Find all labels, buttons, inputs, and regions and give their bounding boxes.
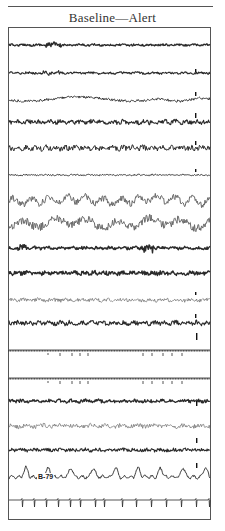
trace-channel-0	[9, 42, 210, 47]
trace-channel-8	[9, 245, 210, 253]
trace-channel-13	[9, 378, 210, 384]
calibration-mark	[195, 113, 196, 118]
calibration-mark	[195, 141, 196, 145]
calibration-mark	[196, 438, 197, 443]
polygraph-traces	[0, 0, 225, 531]
calibration-mark	[196, 333, 197, 340]
trace-channel-5	[9, 174, 210, 176]
trace-channel-4	[9, 145, 210, 152]
trace-channel-6	[9, 193, 210, 207]
annotation-label: B-79	[37, 473, 54, 481]
calibration-marks	[195, 69, 197, 468]
trace-channel-1	[9, 71, 210, 76]
trace-channel-2	[9, 96, 210, 102]
trace-channel-15	[9, 423, 210, 429]
calibration-mark	[195, 92, 196, 96]
calibration-mark	[195, 314, 196, 318]
trace-channel-7	[9, 214, 210, 231]
trace-group	[9, 42, 210, 507]
calibration-mark	[195, 292, 196, 295]
calibration-mark	[196, 401, 197, 406]
trace-channel-16	[9, 448, 210, 452]
trace-channel-3	[9, 119, 210, 124]
calibration-mark	[195, 169, 196, 172]
trace-channel-10	[9, 298, 210, 303]
trace-channel-9	[9, 271, 210, 276]
calibration-mark	[195, 69, 196, 72]
trace-channel-18	[9, 499, 210, 508]
trace-channel-11	[9, 320, 210, 326]
calibration-mark	[196, 463, 197, 468]
trace-channel-14	[9, 399, 210, 403]
trace-channel-12	[9, 350, 210, 356]
